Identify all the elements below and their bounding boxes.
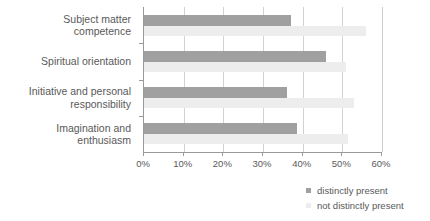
x-axis-tick [143, 152, 144, 156]
plot-area [143, 7, 383, 152]
legend-label: not distinctly present [317, 200, 404, 211]
x-axis-tick-label: 30% [242, 158, 282, 169]
bar-distinctly-present [144, 15, 291, 26]
bar-not-distinctly-present [144, 62, 346, 72]
category-label: Imagination and enthusiasm [0, 122, 131, 146]
bar-not-distinctly-present [144, 98, 354, 108]
x-axis-tick [222, 152, 223, 156]
legend-item[interactable]: distinctly present [306, 183, 430, 198]
x-axis-tick [381, 152, 382, 156]
bar-chart: Subject matter competenceSpiritual orien… [0, 0, 430, 221]
x-axis-tick [183, 152, 184, 156]
x-axis-tick-label: 0% [123, 158, 163, 169]
y-axis-tick [139, 43, 143, 44]
bar-not-distinctly-present [144, 134, 348, 144]
bar-not-distinctly-present [144, 26, 366, 36]
x-axis-tick [262, 152, 263, 156]
legend-item[interactable]: not distinctly present [306, 198, 430, 213]
legend-label: distinctly present [317, 185, 388, 196]
x-axis-tick-label: 50% [321, 158, 361, 169]
y-axis-tick [139, 80, 143, 81]
category-label: Initiative and personal responsibility [0, 85, 131, 109]
x-axis-tick-label: 60% [361, 158, 401, 169]
bar-distinctly-present [144, 51, 326, 62]
category-label: Subject matter competence [0, 13, 131, 37]
x-axis-tick-label: 20% [202, 158, 242, 169]
x-axis-tick [341, 152, 342, 156]
category-label: Spiritual orientation [0, 55, 131, 67]
bar-distinctly-present [144, 123, 297, 134]
legend-swatch-icon [306, 188, 311, 193]
x-axis-tick-label: 10% [163, 158, 203, 169]
x-axis-tick-label: 40% [282, 158, 322, 169]
category-axis-labels: Subject matter competenceSpiritual orien… [0, 7, 136, 152]
chart-legend: distinctly presentnot distinctly present [306, 183, 430, 213]
x-axis-tick [302, 152, 303, 156]
y-axis-tick [139, 116, 143, 117]
bar-distinctly-present [144, 87, 287, 98]
legend-swatch-icon [306, 203, 311, 208]
